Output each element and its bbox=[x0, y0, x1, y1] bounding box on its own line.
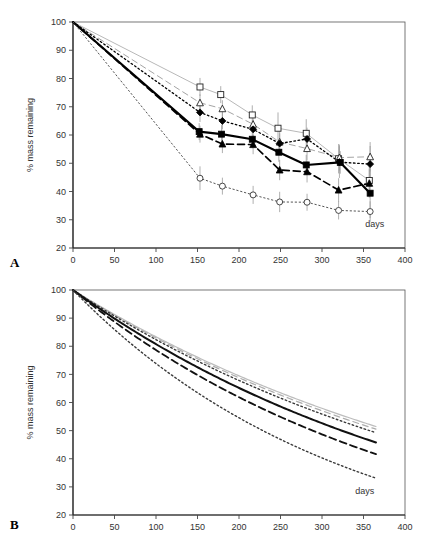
svg-text:100: 100 bbox=[51, 285, 66, 295]
panel-a: 2030405060708090100050100150200250300350… bbox=[0, 0, 428, 280]
marker-open-square bbox=[275, 125, 281, 131]
svg-text:100: 100 bbox=[51, 17, 66, 27]
svg-text:90: 90 bbox=[56, 45, 66, 55]
marker-open-square bbox=[249, 112, 255, 118]
marker-filled-triangle bbox=[335, 186, 342, 193]
svg-text:250: 250 bbox=[273, 255, 288, 265]
series-markers-filled-diamond bbox=[196, 109, 373, 168]
series-markers-open-circle bbox=[197, 175, 373, 214]
decomposition-figure: 2030405060708090100050100150200250300350… bbox=[0, 0, 428, 545]
svg-text:350: 350 bbox=[356, 522, 371, 532]
marker-open-circle bbox=[197, 175, 203, 181]
marker-filled-square bbox=[303, 162, 309, 168]
error-bars-open-triangle bbox=[200, 94, 370, 171]
fitted-curve-filled-square bbox=[73, 290, 376, 442]
svg-text:250: 250 bbox=[273, 522, 288, 532]
svg-text:300: 300 bbox=[314, 255, 329, 265]
svg-text:200: 200 bbox=[231, 522, 246, 532]
plot-frame-b: 2030405060708090100050100150200250300350… bbox=[0, 275, 428, 545]
svg-text:% mass remaining: % mass remaining bbox=[25, 365, 35, 439]
marker-open-square bbox=[303, 130, 309, 136]
svg-text:80: 80 bbox=[56, 341, 66, 351]
series-line-open-square bbox=[73, 22, 369, 180]
panel-b: 2030405060708090100050100150200250300350… bbox=[0, 275, 428, 545]
marker-filled-square bbox=[367, 190, 373, 196]
marker-open-square bbox=[197, 84, 203, 90]
svg-text:40: 40 bbox=[56, 187, 66, 197]
error-bars-filled-triangle bbox=[200, 126, 369, 202]
fitted-curve-filled-triangle bbox=[73, 290, 376, 454]
svg-text:20: 20 bbox=[56, 510, 66, 520]
error-bars-open-square bbox=[200, 78, 369, 197]
svg-text:60: 60 bbox=[56, 398, 66, 408]
marker-open-circle bbox=[219, 183, 225, 189]
fitted-curve-open-square bbox=[73, 290, 376, 427]
svg-text:400: 400 bbox=[397, 255, 412, 265]
plot-frame-a: 2030405060708090100050100150200250300350… bbox=[0, 0, 428, 280]
marker-filled-diamond bbox=[219, 117, 226, 124]
marker-filled-square bbox=[337, 159, 343, 165]
svg-text:90: 90 bbox=[56, 313, 66, 323]
fitted-curve-open-circle bbox=[73, 290, 376, 478]
marker-open-circle bbox=[250, 192, 256, 198]
svg-text:100: 100 bbox=[148, 255, 163, 265]
marker-filled-square bbox=[276, 149, 282, 155]
marker-open-circle bbox=[367, 209, 373, 215]
fitted-curve-open-triangle bbox=[73, 290, 376, 429]
svg-text:60: 60 bbox=[56, 130, 66, 140]
svg-text:300: 300 bbox=[314, 522, 329, 532]
svg-text:350: 350 bbox=[356, 255, 371, 265]
marker-open-circle bbox=[304, 199, 310, 205]
marker-open-square bbox=[218, 92, 224, 98]
svg-text:40: 40 bbox=[56, 454, 66, 464]
svg-text:% mass remaining: % mass remaining bbox=[25, 98, 35, 172]
svg-text:30: 30 bbox=[56, 482, 66, 492]
marker-filled-diamond bbox=[276, 140, 283, 147]
marker-open-circle bbox=[336, 207, 342, 213]
svg-text:50: 50 bbox=[56, 426, 66, 436]
svg-text:200: 200 bbox=[231, 255, 246, 265]
svg-text:0: 0 bbox=[70, 255, 75, 265]
svg-text:400: 400 bbox=[397, 522, 412, 532]
panel-a-label: A bbox=[10, 256, 19, 269]
marker-filled-square bbox=[249, 136, 255, 142]
marker-filled-diamond bbox=[367, 161, 374, 168]
marker-filled-square bbox=[219, 131, 225, 137]
error-bars-open-circle bbox=[200, 166, 370, 221]
svg-text:50: 50 bbox=[109, 522, 119, 532]
svg-text:0: 0 bbox=[70, 522, 75, 532]
svg-text:80: 80 bbox=[56, 74, 66, 84]
svg-text:150: 150 bbox=[190, 522, 205, 532]
svg-text:30: 30 bbox=[56, 215, 66, 225]
svg-text:100: 100 bbox=[148, 522, 163, 532]
marker-open-triangle bbox=[197, 99, 204, 106]
svg-text:20: 20 bbox=[56, 243, 66, 253]
svg-text:70: 70 bbox=[56, 370, 66, 380]
svg-text:50: 50 bbox=[109, 255, 119, 265]
svg-text:70: 70 bbox=[56, 102, 66, 112]
panel-b-label: B bbox=[10, 518, 19, 531]
svg-text:days: days bbox=[355, 486, 375, 496]
svg-text:50: 50 bbox=[56, 158, 66, 168]
svg-text:150: 150 bbox=[190, 255, 205, 265]
marker-open-circle bbox=[277, 199, 283, 205]
svg-text:days: days bbox=[365, 219, 385, 229]
series-line-filled-triangle bbox=[73, 22, 369, 190]
